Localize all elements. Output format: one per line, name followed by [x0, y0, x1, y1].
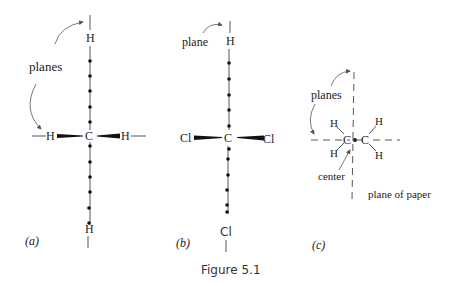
panel-a: H H C H H (a) planes	[25, 15, 146, 248]
annotation-planes-a: planes	[29, 59, 62, 74]
wedge-bond-right	[97, 134, 120, 139]
arrow-to-horizontal-plane	[30, 84, 41, 129]
annotation-plane-b: plane	[182, 35, 208, 49]
wedge-bond-left	[57, 134, 83, 138]
atom-a-top: H	[86, 31, 95, 45]
atom-b-top: H	[226, 34, 235, 48]
panel-label-a: (a)	[25, 234, 39, 248]
wedge-bond-right	[237, 136, 264, 141]
atom-b-center: C	[224, 131, 232, 145]
vertical-plane-dashed-line	[352, 72, 354, 202]
arrow-to-vertical-plane	[331, 71, 350, 86]
arrow-to-vertical-plane	[55, 22, 83, 44]
panel-c: H H C C H H planes center plane of paper…	[310, 71, 431, 252]
panel-label-c: (c)	[312, 238, 325, 252]
dots-lower	[87, 144, 92, 225]
figure-5-1-diagram: H H C H H (a) planes H	[0, 0, 455, 286]
panel-b: H Cl C Cl Cl (b) plane	[176, 21, 275, 252]
atom-c-c2: C	[361, 133, 369, 147]
wedge-bond-left	[194, 136, 222, 141]
atom-b-left: Cl	[180, 131, 192, 145]
atom-a-left: H	[46, 129, 55, 143]
bond-c2-h3	[369, 126, 376, 134]
label-center: center	[318, 170, 345, 182]
atom-a-center: C	[85, 129, 93, 143]
arrow-to-horizontal-plane	[310, 104, 315, 134]
arrow-to-plane	[203, 24, 222, 33]
atom-c-h1: H	[330, 117, 338, 129]
arrow-to-center	[339, 150, 350, 170]
atom-c-h4: H	[375, 149, 383, 161]
atom-a-right: H	[121, 129, 130, 143]
panel-label-b: (b)	[176, 236, 190, 250]
atom-a-bottom: H	[85, 222, 94, 236]
figure-caption: Figure 5.1	[201, 263, 261, 277]
atom-b-right: Cl	[263, 132, 275, 146]
atom-b-bottom: Cl	[220, 225, 232, 239]
atom-c-c1: C	[343, 133, 351, 147]
atom-c-h3: H	[375, 115, 383, 127]
label-plane-of-paper: plane of paper	[368, 188, 431, 200]
annotation-planes-c: planes	[311, 88, 342, 102]
atom-c-h2: H	[330, 147, 338, 159]
